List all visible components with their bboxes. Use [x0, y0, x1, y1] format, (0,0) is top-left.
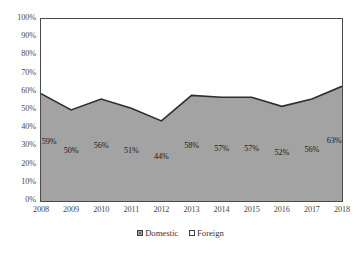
y-axis-tick-label: 30%	[2, 141, 36, 149]
y-axis: 0%10%20%30%40%50%60%70%80%90%100%	[0, 0, 40, 210]
data-label: 58%	[177, 141, 207, 150]
data-label: 56%	[86, 141, 116, 150]
data-label: 52%	[267, 148, 297, 157]
y-axis-tick-label: 20%	[2, 160, 36, 168]
y-axis-tick-label: 90%	[2, 32, 36, 40]
y-axis-tick-label: 40%	[2, 123, 36, 131]
data-label: 63%	[319, 136, 349, 145]
data-label: 50%	[56, 146, 86, 155]
x-axis-tick-label: 2008	[24, 205, 58, 215]
y-axis-tick-label: 50%	[2, 105, 36, 113]
data-label: 51%	[116, 146, 146, 155]
x-axis-tick-label: 2010	[84, 205, 118, 215]
legend-label-foreign: Foreign	[197, 228, 224, 238]
y-axis-tick-label: 70%	[2, 69, 36, 77]
x-axis: 2008200920102011201220132014201520162017…	[40, 205, 343, 219]
x-axis-tick-label: 2013	[175, 205, 209, 215]
x-axis-tick-label: 2016	[265, 205, 299, 215]
y-axis-tick-label: 80%	[2, 50, 36, 58]
data-label: 57%	[207, 144, 237, 153]
legend-item-domestic[interactable]: Domestic	[137, 228, 178, 238]
data-label: 44%	[146, 152, 176, 161]
y-axis-tick-label: 60%	[2, 87, 36, 95]
plot-area	[40, 18, 343, 202]
area-series-svg	[41, 19, 342, 201]
x-axis-tick-label: 2011	[114, 205, 148, 215]
y-axis-tick-label: 0%	[2, 196, 36, 204]
empty-square-icon	[189, 230, 195, 236]
data-label: 59%	[34, 137, 64, 146]
filled-square-icon	[137, 230, 143, 236]
stacked-area-chart: 0%10%20%30%40%50%60%70%80%90%100% 59%50%…	[0, 0, 361, 258]
data-label: 57%	[237, 144, 267, 153]
chart-legend: Domestic Foreign	[0, 228, 361, 238]
data-label: 56%	[297, 145, 327, 154]
y-axis-tick-label: 100%	[2, 14, 36, 22]
x-axis-tick-label: 2018	[325, 205, 359, 215]
x-axis-tick-label: 2012	[144, 205, 178, 215]
x-axis-tick-label: 2009	[54, 205, 88, 215]
x-axis-tick-label: 2014	[205, 205, 239, 215]
legend-label-domestic: Domestic	[145, 228, 178, 238]
x-axis-tick-label: 2017	[295, 205, 329, 215]
x-axis-tick-label: 2015	[235, 205, 269, 215]
y-axis-tick-label: 10%	[2, 178, 36, 186]
legend-item-foreign[interactable]: Foreign	[189, 228, 224, 238]
